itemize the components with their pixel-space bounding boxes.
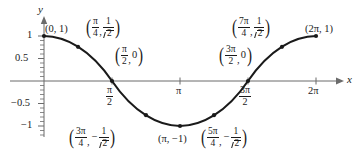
left-paren: ( <box>232 19 237 36</box>
cosine-graph-figure: y x 1 0.5 −0.5 −1 π 2 π 3π 2 2π (0, 1) (… <box>0 0 362 163</box>
point-label-pi-minus-1: (π, −1) <box>158 134 187 145</box>
five-pi-over-4-denominator: 4 <box>207 138 219 148</box>
y-tick-0-5: 0.5 <box>15 53 28 64</box>
minus-sign: − <box>223 132 231 143</box>
three-pi-over-2-denominator: 2 <box>225 56 237 66</box>
y-tick-minus-1: −1 <box>21 120 32 131</box>
one-over-sqrt2-denominator: 2 <box>231 138 242 148</box>
x-tick-3pi-over-2-numerator: 3π <box>239 85 251 97</box>
sqrt-icon: 2 <box>231 139 242 149</box>
left-paren: ( <box>115 47 120 64</box>
x-tick-2pi: 2π <box>308 86 319 97</box>
x-tick-pi-over-2: π 2 <box>106 85 113 107</box>
minus-sign: − <box>91 132 99 143</box>
pi-over-2-denominator: 2 <box>121 56 128 66</box>
pi-over-2-value: 0 <box>132 50 137 61</box>
one-over-sqrt2-denominator: 2 <box>99 138 110 148</box>
x-tick-3pi-over-2-denominator: 2 <box>239 97 251 108</box>
left-paren: ( <box>69 129 74 146</box>
x-axis <box>10 78 344 85</box>
five-pi-over-4-numerator: 5π <box>207 127 219 138</box>
three-pi-over-4-numerator: 3π <box>75 127 87 138</box>
point-label-5pi-over-4: ( 5π 4 , − 1 2 ) <box>200 127 248 148</box>
x-axis-label: x <box>347 74 352 85</box>
point-label-7pi-over-4: ( 7π 4 , 1 2 ) <box>231 17 271 38</box>
point-label-pi-over-2: ( π 2 , 0 ) <box>114 45 144 66</box>
left-paren: ( <box>86 19 91 36</box>
left-paren: ( <box>201 129 206 146</box>
seven-pi-over-4-denominator: 4 <box>238 28 250 38</box>
point-label-0-1: (0, 1) <box>45 24 68 35</box>
sqrt-icon: 2 <box>99 139 110 149</box>
one-over-sqrt2-denominator: 2 <box>103 28 114 38</box>
y-axis-label: y <box>38 4 43 15</box>
one-over-sqrt2-numerator: 1 <box>99 127 110 138</box>
x-tick-3pi-over-2: 3π 2 <box>239 85 251 107</box>
y-tick-1: 1 <box>27 30 32 41</box>
one-over-sqrt2-numerator: 1 <box>254 17 265 28</box>
one-over-sqrt2-numerator: 1 <box>231 127 242 138</box>
three-pi-over-4-denominator: 4 <box>75 138 87 148</box>
point-label-pi-over-4: ( π 4 , 1 2 ) <box>85 17 121 38</box>
right-paren: ) <box>242 129 247 146</box>
pi-over-4-numerator: π <box>92 17 99 28</box>
point-label-3pi-over-4: ( 3π 4 , − 1 2 ) <box>68 127 116 148</box>
x-tick-pi: π <box>176 86 181 97</box>
pi-over-4-denominator: 4 <box>92 28 99 38</box>
sqrt-icon: 2 <box>254 29 265 39</box>
right-paren: ) <box>265 19 270 36</box>
point-label-3pi-over-2: ( 3π 2 , 0 ) <box>218 45 253 66</box>
one-over-sqrt2-numerator: 1 <box>103 17 114 28</box>
x-tick-pi-over-2-numerator: π <box>106 85 113 97</box>
pi-over-2-numerator: π <box>121 45 128 56</box>
sqrt-icon: 2 <box>103 29 114 39</box>
right-paren: ) <box>138 47 143 64</box>
left-paren: ( <box>219 47 224 64</box>
seven-pi-over-4-numerator: 7π <box>238 17 250 28</box>
point-label-2pi-1: (2π, 1) <box>305 24 333 35</box>
right-paren: ) <box>110 129 115 146</box>
three-pi-over-2-value: 0 <box>241 50 246 61</box>
right-paren: ) <box>115 19 120 36</box>
y-tick-minus-0-5: −0.5 <box>11 98 30 109</box>
x-tick-pi-over-2-denominator: 2 <box>106 97 113 108</box>
one-over-sqrt2-denominator: 2 <box>254 28 265 38</box>
three-pi-over-2-numerator: 3π <box>225 45 237 56</box>
right-paren: ) <box>247 47 252 64</box>
